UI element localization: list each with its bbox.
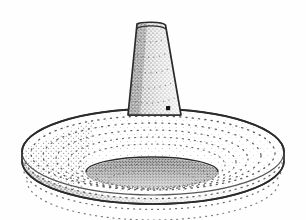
artifact-illustration: Stippled line drawing of a conical-shaft… [0,0,306,220]
perforation-mark [166,106,170,110]
figure-canvas: Stippled line drawing of a conical-shaft… [0,0,306,220]
